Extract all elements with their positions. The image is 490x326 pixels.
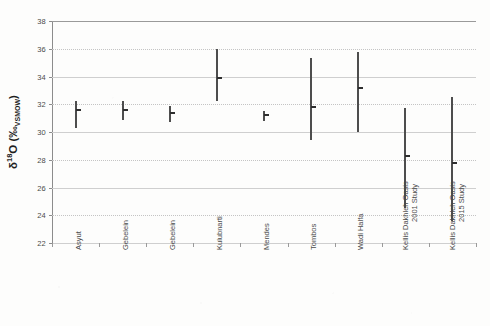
y-axis-title: δ18O (‰VSMOW) xyxy=(2,21,24,243)
range-whisker xyxy=(216,49,218,102)
y-tick-label: 34 xyxy=(37,72,46,81)
y-tick-label: 30 xyxy=(37,128,46,137)
x-tick-mark xyxy=(146,243,147,247)
y-tick-label: 36 xyxy=(37,44,46,53)
gridline-38 xyxy=(52,21,476,22)
x-axis-label-text: Kulubnarti xyxy=(216,216,225,250)
chart-figure: δ18O (‰VSMOW) 222426283032343638 AsyutGe… xyxy=(0,0,490,326)
x-tick-mark xyxy=(429,243,430,247)
y-tick-mark xyxy=(49,215,52,216)
x-axis-label-text: Kellis Dakhleh Oasis2015 Study xyxy=(449,184,466,250)
x-axis-label-line: 2015 Study xyxy=(458,184,467,250)
mean-marker xyxy=(358,87,363,89)
mean-marker xyxy=(452,162,457,164)
x-axis-label-text: Gebelein xyxy=(122,220,131,250)
gridline-36 xyxy=(52,49,476,50)
x-axis-label-line: 2001 Study xyxy=(411,184,420,250)
delta-symbol: δ xyxy=(7,162,19,169)
oxygen-permil: O (‰ xyxy=(7,126,19,153)
y-title-paren: ) xyxy=(7,95,19,99)
x-axis-label-line: Kulubnarti xyxy=(215,216,224,250)
x-tick-mark xyxy=(382,243,383,247)
x-axis-label-text: Gebelein xyxy=(169,220,178,250)
y-tick-mark xyxy=(49,132,52,133)
y-tick-mark xyxy=(49,77,52,78)
gridline-30 xyxy=(52,132,476,133)
y-tick-label: 28 xyxy=(37,155,46,164)
y-tick-mark xyxy=(49,49,52,50)
x-axis-label-line: Wadi Halfa xyxy=(356,214,365,250)
range-whisker xyxy=(357,52,359,132)
gridline-28 xyxy=(52,160,476,161)
x-tick-mark xyxy=(193,243,194,247)
y-tick-mark xyxy=(49,188,52,189)
x-axis-label-text: Asyut xyxy=(75,231,84,250)
x-axis-label-text: Mendes xyxy=(263,223,272,250)
y-tick-label: 22 xyxy=(37,239,46,248)
x-tick-mark xyxy=(335,243,336,247)
mean-marker xyxy=(217,77,222,79)
y-tick-label: 32 xyxy=(37,100,46,109)
y-tick-mark xyxy=(49,21,52,22)
x-axis-label-line: Kellis Dakhleh Oasis xyxy=(401,181,410,250)
x-axis-label-line: Mendes xyxy=(262,223,271,250)
mean-marker xyxy=(311,106,316,108)
x-tick-mark xyxy=(240,243,241,247)
x-axis-label-line: Tombos xyxy=(309,224,318,250)
x-axis-label-text: Tombos xyxy=(310,224,319,250)
x-axis-label-line: Gebelein xyxy=(121,220,130,250)
x-tick-mark xyxy=(476,243,477,247)
y-tick-label: 26 xyxy=(37,183,46,192)
mean-marker xyxy=(264,114,269,116)
x-axis-label-line: Gebelein xyxy=(168,220,177,250)
y-tick-label: 24 xyxy=(37,211,46,220)
range-whisker xyxy=(310,58,312,140)
mean-marker xyxy=(123,109,128,111)
gridline-32 xyxy=(52,104,476,105)
y-tick-label: 38 xyxy=(37,17,46,26)
y-tick-mark xyxy=(49,160,52,161)
gridline-34 xyxy=(52,77,476,78)
range-whisker xyxy=(169,106,171,123)
x-tick-mark xyxy=(52,243,53,247)
x-tick-mark xyxy=(288,243,289,247)
mean-marker xyxy=(170,112,175,114)
y-axis-title-text: δ18O (‰VSMOW) xyxy=(5,95,21,169)
isotope-superscript: 18 xyxy=(5,154,14,162)
range-whisker xyxy=(75,101,77,127)
x-tick-mark xyxy=(99,243,100,247)
x-axis-label-text: Wadi Halfa xyxy=(357,214,366,250)
y-tick-mark xyxy=(49,104,52,105)
vsmow-subscript: VSMOW xyxy=(14,99,21,126)
mean-marker xyxy=(405,155,410,157)
x-axis-label-line: Asyut xyxy=(74,231,83,250)
mean-marker xyxy=(76,109,81,111)
x-axis-label-text: Kellis Dakhleh Oasis2001 Study xyxy=(402,184,419,250)
